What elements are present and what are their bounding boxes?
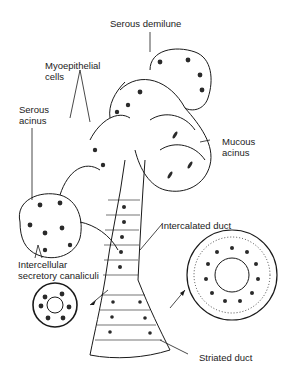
- label-serous-demilune: Serous demilune: [110, 18, 181, 29]
- label-myoepithelial-line1: Myoepithelial: [45, 60, 100, 71]
- mucous-acinus-shape: [120, 80, 211, 192]
- intercalated-duct-shape: [105, 160, 125, 280]
- arrowheads: [90, 290, 185, 305]
- label-mucous-acinus-line2: acinus: [222, 147, 249, 158]
- label-myoepithelial-line2: cells: [45, 71, 64, 82]
- salivary-gland-diagram: Serous demilune Myoepithelial cells Sero…: [0, 0, 291, 380]
- striated-duct-shape: [90, 280, 105, 355]
- label-serous-acinus-line2: acinus: [19, 115, 46, 126]
- gland-illustration: [0, 0, 291, 380]
- label-canaliculi-line1: Intercellular: [18, 259, 67, 270]
- label-serous-acinus-line1: Serous: [19, 104, 49, 115]
- label-striated-duct: Striated duct: [199, 352, 252, 363]
- label-intercalated-duct: Intercalated duct: [161, 220, 231, 231]
- striated-cross-section: [187, 230, 277, 320]
- label-canaliculi-line2: secretory canaliculi: [18, 270, 99, 281]
- label-mucous-acinus-line1: Mucous: [222, 136, 255, 147]
